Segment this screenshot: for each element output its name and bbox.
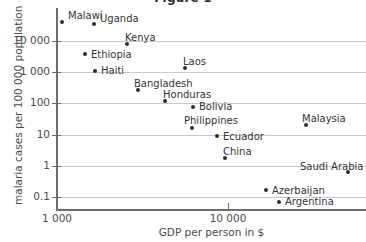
scatter-plot: 10 0001 0001001010.1 1 00010 000 MalawiU…	[0, 0, 366, 242]
x-axis-tick	[57, 203, 58, 210]
y-axis-tick-label-wrap: 10 000	[0, 34, 50, 46]
data-point-label: Philippines	[184, 115, 238, 126]
data-point[interactable]	[264, 188, 268, 192]
y-axis-tick	[52, 41, 61, 42]
x-axis-tick	[228, 203, 229, 210]
data-point-label: Argentina	[285, 196, 334, 207]
data-point-label: Ethiopia	[91, 49, 132, 60]
x-axis-tick-label: 10 000	[210, 212, 247, 224]
y-axis-tick	[52, 135, 61, 136]
data-point-label: Bangladesh	[134, 78, 193, 89]
y-axis-tick-label-wrap: 10	[0, 128, 50, 140]
data-point[interactable]	[190, 126, 194, 130]
y-axis-tick-label: 100	[0, 96, 50, 108]
y-axis-tick-label: 0.1	[0, 190, 50, 202]
y-axis-tick-label-wrap: 1 000	[0, 65, 50, 77]
x-axis-line	[56, 209, 366, 211]
y-axis-tick-label: 1	[0, 159, 50, 171]
data-point-label: Bolivia	[199, 101, 232, 112]
y-axis-tick	[52, 197, 61, 198]
data-point[interactable]	[277, 200, 281, 204]
data-point-label: Kenya	[125, 32, 156, 43]
y-axis-tick-label-wrap: 100	[0, 96, 50, 108]
x-axis-tick-label: 1 000	[42, 212, 72, 224]
data-point-label: Laos	[183, 56, 206, 67]
y-axis-tick-label-wrap: 1	[0, 159, 50, 171]
y-axis-tick-label: 10	[0, 128, 50, 140]
data-point-label: Honduras	[163, 89, 211, 100]
data-point-label: Ecuador	[223, 131, 264, 142]
y-axis-tick	[52, 103, 61, 104]
data-point-label: China	[223, 146, 252, 157]
data-point[interactable]	[60, 20, 64, 24]
y-axis-line	[56, 8, 58, 210]
data-point[interactable]	[93, 69, 97, 73]
gridline	[57, 41, 366, 42]
y-axis-tick-label-wrap: 0.1	[0, 190, 50, 202]
data-point-label: Uganda	[100, 13, 139, 24]
data-point-label: Saudi Arabia	[300, 161, 363, 172]
data-point-label: Malaysia	[302, 113, 346, 124]
data-point-label: Malawi	[68, 10, 103, 21]
y-axis-tick-label: 10 000	[0, 34, 50, 46]
data-point-label: Azerbaijan	[272, 185, 325, 196]
y-axis-title: malaria cases per 100 000 population	[12, 6, 24, 205]
x-axis-title: GDP per person in $	[57, 226, 366, 238]
data-point-label: Haiti	[101, 65, 124, 76]
data-point[interactable]	[83, 52, 87, 56]
data-point[interactable]	[215, 134, 219, 138]
y-axis-tick	[52, 72, 61, 73]
data-point[interactable]	[191, 105, 195, 109]
y-axis-tick-label: 1 000	[0, 65, 50, 77]
data-point[interactable]	[92, 22, 96, 26]
gridline	[57, 135, 366, 136]
figure-container: Figure 1 10 0001 0001001010.1 1 00010 00…	[0, 0, 366, 242]
y-axis-tick	[52, 166, 61, 167]
